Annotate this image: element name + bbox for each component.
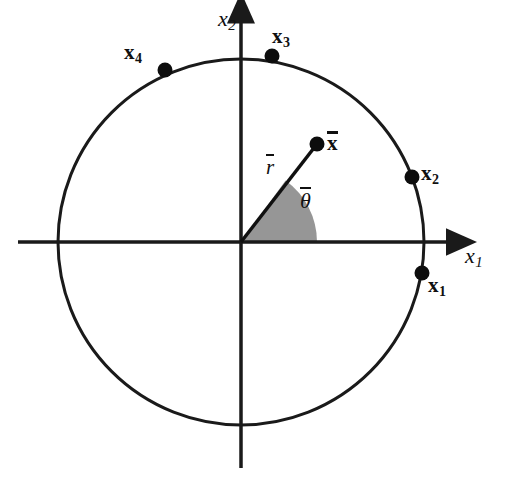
point-label-x3-subscript: 3 xyxy=(283,35,290,50)
y-axis-label-text: x xyxy=(218,6,228,31)
point-label-x1-text: x xyxy=(428,273,439,297)
data-point-x4 xyxy=(158,63,173,78)
point-label-x2-subscript: 2 xyxy=(432,172,439,187)
point-label-x2: x2 xyxy=(421,163,439,187)
mean-angle-label: θ xyxy=(300,186,311,212)
data-point-x3 xyxy=(265,49,280,64)
figure-canvas xyxy=(0,0,507,478)
point-label-x1-subscript: 1 xyxy=(439,284,446,299)
mean-radius-label: r xyxy=(266,153,274,178)
point-label-x4: x4 xyxy=(124,42,142,66)
y-axis-label-subscript: 2 xyxy=(228,17,236,33)
mean-vector-label-text: x xyxy=(327,130,338,154)
mean-angle-label-text: θ xyxy=(300,186,311,212)
x-axis-label-subscript: 1 xyxy=(475,254,483,270)
mean-vector-label: x xyxy=(327,130,338,154)
y-axis-label: x2 xyxy=(218,8,236,33)
x-axis-label: x1 xyxy=(465,245,483,270)
x-axis-label-text: x xyxy=(465,243,475,268)
point-label-x2-text: x xyxy=(421,161,432,185)
point-label-x3: x3 xyxy=(272,26,290,50)
polar-circle-figure: x1 x2 x1 x2 x3 x4 x r θ xyxy=(0,0,507,478)
point-label-x4-text: x xyxy=(124,40,135,64)
point-label-x3-text: x xyxy=(272,24,283,48)
mean-radius-label-text: r xyxy=(266,153,274,178)
data-point-x2 xyxy=(405,170,420,185)
point-label-x1: x1 xyxy=(428,275,446,299)
data-point-mean-vector xyxy=(310,137,325,152)
point-label-x4-subscript: 4 xyxy=(135,51,142,66)
